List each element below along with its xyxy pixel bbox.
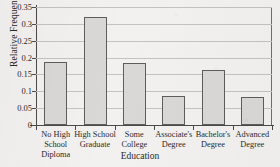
y-axis-tick-label: 0.2 (0, 54, 32, 63)
bar (84, 17, 107, 125)
y-axis-tick-label: 0.15 (0, 70, 32, 79)
x-axis-tick-label: Advanced Degree (230, 130, 275, 150)
y-axis-tick-label: 0.35 (0, 3, 32, 12)
bar-chart-figure: Relative Frequency 00.050.10.150.20.250.… (0, 0, 280, 167)
bar (202, 70, 225, 125)
x-axis-title: Education (0, 151, 280, 161)
bar (123, 63, 146, 125)
plot-area (36, 7, 272, 125)
x-axis-line (30, 125, 274, 126)
y-axis-tick-label: 0.25 (0, 37, 32, 46)
bar (241, 97, 264, 125)
y-axis-tick-label: 0.05 (0, 104, 32, 113)
y-axis-tick-label: 0.1 (0, 87, 32, 96)
y-axis-tick-label: 0 (0, 121, 32, 130)
bar (162, 96, 185, 125)
bar (44, 62, 67, 125)
y-axis-tick-label: 0.3 (0, 20, 32, 29)
